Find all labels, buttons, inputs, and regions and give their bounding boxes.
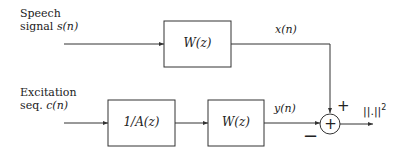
bottom-filter-label: W(z)	[208, 115, 264, 129]
speech-label: Speech signal s(n)	[20, 7, 78, 33]
top-filter-label: W(z)	[164, 36, 231, 50]
summer-plus-symbol: +	[324, 115, 337, 133]
norm-exponent: 2	[381, 103, 386, 112]
excitation-label-prefix: seq.	[20, 99, 46, 112]
synthesis-filter-label: 1/A(z)	[108, 115, 175, 129]
minus-sign: −	[303, 125, 318, 146]
y-signal-label: y(n)	[274, 102, 296, 115]
norm-label: ||.||2	[363, 101, 386, 118]
speech-label-line2: signal s(n)	[20, 20, 78, 33]
excitation-signal-symbol: c(n)	[46, 99, 68, 112]
plus-sign: +	[337, 97, 350, 115]
speech-signal-symbol: s(n)	[57, 20, 78, 33]
norm-symbol: ||.||	[363, 105, 381, 118]
excitation-label-line2: seq. c(n)	[20, 99, 77, 112]
speech-label-line1: Speech	[20, 7, 78, 20]
x-signal-label: x(n)	[275, 23, 297, 36]
speech-label-prefix: signal	[20, 20, 57, 33]
diagram-canvas: Speech signal s(n) Excitation seq. c(n) …	[0, 0, 405, 156]
excitation-label: Excitation seq. c(n)	[20, 86, 77, 112]
excitation-label-line1: Excitation	[20, 86, 77, 99]
